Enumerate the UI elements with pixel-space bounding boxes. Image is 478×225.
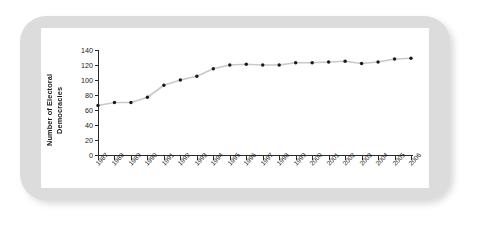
- data-point: [376, 60, 379, 63]
- line-chart: Number of Electoral Democracies 02040608…: [0, 0, 478, 225]
- data-point: [195, 75, 198, 78]
- plot-area: [0, 0, 478, 225]
- data-point: [409, 57, 412, 60]
- data-point: [96, 104, 99, 107]
- data-point: [360, 62, 363, 65]
- data-point: [113, 101, 116, 104]
- data-point: [393, 57, 396, 60]
- data-point: [129, 101, 132, 104]
- data-point: [146, 96, 149, 99]
- data-point: [261, 63, 264, 66]
- chart-screenshot: Number of Electoral Democracies 02040608…: [0, 0, 478, 225]
- data-point: [179, 78, 182, 81]
- data-point: [245, 63, 248, 66]
- data-series-line: [98, 58, 411, 105]
- data-point: [162, 84, 165, 87]
- data-point: [327, 60, 330, 63]
- data-point: [278, 63, 281, 66]
- data-point: [212, 67, 215, 70]
- data-point: [294, 61, 297, 64]
- data-point: [310, 61, 313, 64]
- data-point: [343, 60, 346, 63]
- data-point: [228, 63, 231, 66]
